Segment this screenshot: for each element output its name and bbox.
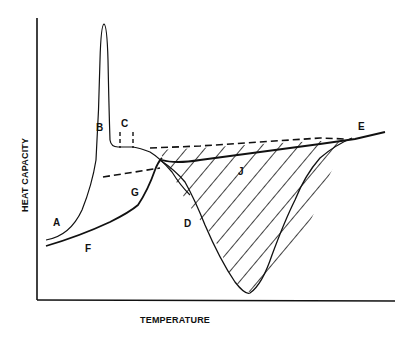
label-a: A [53,217,60,228]
label-b: B [96,122,103,133]
label-g: G [131,187,139,198]
label-d: D [184,218,191,229]
label-e: E [358,121,365,132]
heat-capacity-diagram: A B C D E F G J TEMPERATURE HEAT CAPACIT… [0,0,411,338]
label-j: J [238,166,244,177]
label-c: C [121,118,128,129]
x-axis-title: TEMPERATURE [140,315,210,325]
dashed-line-g [103,168,160,177]
curve-a-b [46,24,190,240]
label-f: F [85,243,91,254]
x-axis [37,300,395,301]
hatched-region-j [150,130,370,300]
y-axis-title: HEAT CAPACITY [20,138,30,212]
